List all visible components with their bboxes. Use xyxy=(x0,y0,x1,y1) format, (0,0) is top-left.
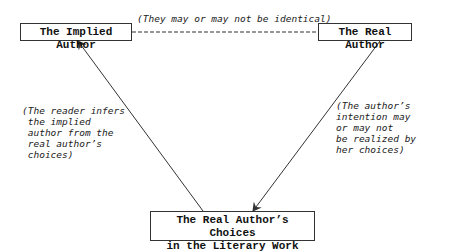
choices-label-line1: The Real Author’s Choices xyxy=(151,214,314,240)
real-author-box: The Real Author xyxy=(318,23,412,41)
diagram-canvas: The Implied Author The Real Author The R… xyxy=(0,0,461,252)
real-author-label: The Real Author xyxy=(339,26,392,51)
realization-note: (The author’s intention may or may not b… xyxy=(336,100,416,155)
inference-note: (The reader infers the implied author fr… xyxy=(22,105,125,160)
implied-author-box: The Implied Author xyxy=(20,23,132,41)
identity-note: (They may or may not be identical) xyxy=(137,13,331,24)
choices-box: The Real Author’s Choices in the Literar… xyxy=(150,211,315,241)
choices-label-line2: in the Literary Work xyxy=(151,240,314,252)
